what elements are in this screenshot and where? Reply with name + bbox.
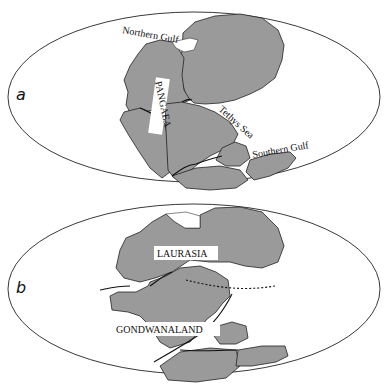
pangaea-figure: a Northern Gulf PANGAEA Tethys Sea South… — [0, 0, 388, 387]
panel-letter-a: a — [16, 85, 26, 104]
panel-a: a Northern Gulf PANGAEA Tethys Sea South… — [8, 12, 380, 190]
panel-letter-b: b — [16, 278, 26, 297]
label-laurasia: LAURASIA — [157, 248, 208, 259]
panel-b: b LAURASIA GONDWANALAND — [8, 204, 380, 382]
label-gondwanaland: GONDWANALAND — [116, 324, 203, 335]
